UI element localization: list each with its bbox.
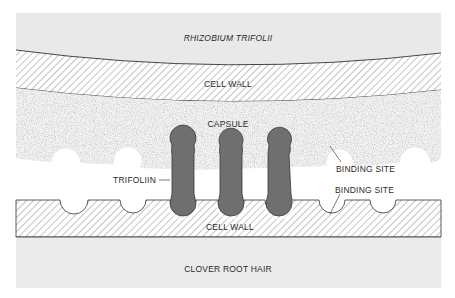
trifoliin-3	[266, 127, 292, 216]
label-upper-cell-wall: CELL WALL	[204, 79, 252, 89]
trifoliin-2	[218, 128, 244, 216]
label-binding-site-lower: BINDING SITE	[335, 185, 394, 195]
trifoliin-molecules	[170, 125, 292, 216]
label-trifoliin: TRIFOLIIN	[113, 175, 156, 185]
trifoliin-1	[170, 125, 196, 216]
root-hair-region	[16, 237, 441, 288]
label-clover-root-hair: CLOVER ROOT HAIR	[184, 264, 272, 274]
rhizobium-binding-diagram: RHIZOBIUM TRIFOLII CELL WALL CAPSULE TRI…	[0, 0, 455, 298]
label-lower-cell-wall: CELL WALL	[206, 222, 254, 232]
label-binding-site-upper: BINDING SITE	[336, 164, 395, 174]
label-capsule: CAPSULE	[207, 119, 248, 129]
label-rhizobium-trifolii: RHIZOBIUM TRIFOLII	[184, 33, 273, 43]
